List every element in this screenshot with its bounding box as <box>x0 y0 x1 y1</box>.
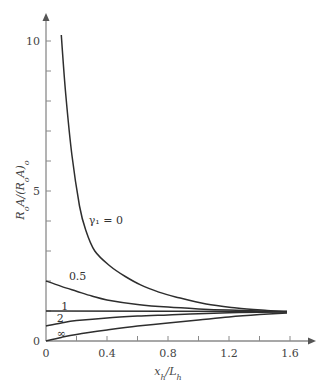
y-tick-label: 10 <box>26 35 40 48</box>
x-axis-label: xh/Lh <box>154 365 182 382</box>
x-tick-label: 1.6 <box>281 347 299 360</box>
curve-label: γ₁ = 0 <box>89 214 123 227</box>
axes <box>43 13 317 345</box>
y-axis-label: RoA/(RoA)o <box>14 160 31 220</box>
y-tick-label: 5 <box>33 185 40 198</box>
x-tick-label: 0.4 <box>98 347 116 360</box>
y-tick-label: 0 <box>33 335 40 348</box>
x-tick-label: 1.2 <box>220 347 238 360</box>
x-tick-label: 0.8 <box>159 347 177 360</box>
curve-∞ <box>46 313 287 341</box>
curve-0.5 <box>46 281 287 312</box>
curve-label: 0.5 <box>69 270 87 283</box>
chart: 00.40.81.21.6 0510 γ₁ = 00.512∞ xh/Lh Ro… <box>0 0 326 386</box>
curve-γ1 = 0 <box>61 35 287 312</box>
curve-1 <box>46 311 287 312</box>
curve-label: 1 <box>61 300 68 313</box>
x-axis-arrow-icon <box>308 338 316 345</box>
y-axis-arrow-icon <box>43 13 50 21</box>
curve-label: 2 <box>57 312 64 325</box>
x-ticks: 00.40.81.21.6 <box>43 336 299 360</box>
curves <box>46 35 287 341</box>
x-tick-label: 0 <box>43 347 50 360</box>
y-ticks: 0510 <box>26 35 51 348</box>
curve-label: ∞ <box>57 327 66 340</box>
